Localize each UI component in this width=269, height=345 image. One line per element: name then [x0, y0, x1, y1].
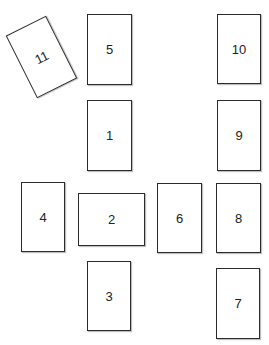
- card-4: 4: [21, 182, 65, 252]
- card-label: 2: [108, 212, 115, 227]
- card-7: 7: [216, 268, 260, 339]
- card-6: 6: [157, 183, 202, 253]
- card-label: 1: [106, 128, 113, 143]
- card-10: 10: [217, 14, 261, 84]
- card-label: 4: [39, 210, 46, 225]
- card-label: 3: [105, 289, 112, 304]
- card-9: 9: [217, 100, 261, 171]
- card-label: 11: [32, 47, 51, 66]
- card-3: 3: [87, 261, 131, 331]
- card-8: 8: [216, 183, 261, 253]
- card-11: 11: [6, 16, 78, 99]
- card-2: 2: [78, 193, 145, 246]
- card-5: 5: [87, 14, 132, 85]
- card-label: 9: [235, 128, 242, 143]
- card-label: 6: [176, 211, 183, 226]
- card-label: 8: [235, 211, 242, 226]
- card-label: 5: [106, 42, 113, 57]
- card-label: 10: [232, 42, 246, 57]
- card-1: 1: [87, 100, 132, 171]
- card-label: 7: [234, 296, 241, 311]
